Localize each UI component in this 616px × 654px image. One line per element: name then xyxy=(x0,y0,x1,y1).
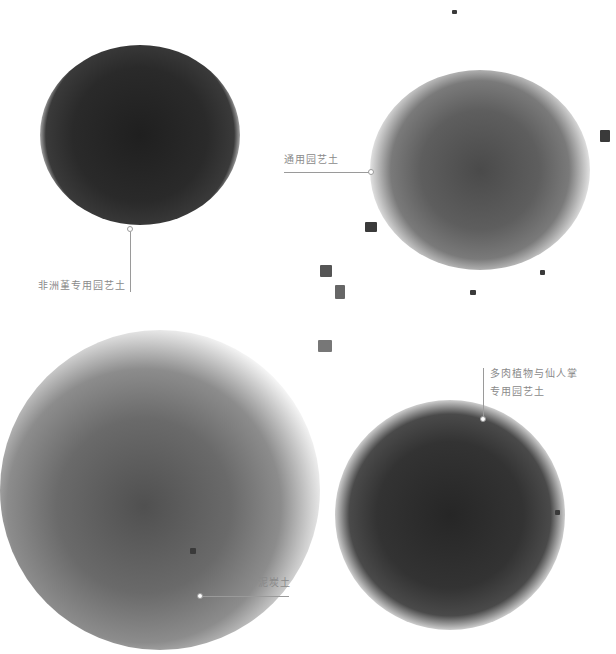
african-violet-soil-pile xyxy=(40,45,240,225)
leader-line-peat xyxy=(203,596,289,597)
general-soil-pile xyxy=(370,70,590,270)
label-succulent-soil-line2: 专用园艺土 xyxy=(490,384,545,400)
soil-speck xyxy=(365,222,377,232)
label-succulent-soil-line1: 多肉植物与仙人掌 xyxy=(490,366,578,382)
soil-speck xyxy=(470,290,476,295)
label-african-violet-soil: 非洲堇专用园艺土 xyxy=(38,278,126,294)
soil-speck xyxy=(318,340,332,352)
succulent-soil-pile xyxy=(335,400,565,630)
leader-dot-succulent xyxy=(480,416,486,422)
soil-speck xyxy=(600,130,610,142)
leader-line-general xyxy=(284,172,370,173)
leader-line-succulent xyxy=(483,368,484,418)
soil-speck xyxy=(452,10,457,14)
soil-speck xyxy=(555,510,560,515)
leader-dot-general xyxy=(368,169,374,175)
soil-speck xyxy=(190,548,196,554)
peat-soil-pile xyxy=(0,330,320,650)
soil-speck xyxy=(320,265,332,277)
label-general-soil: 通用园艺土 xyxy=(284,152,339,168)
leader-line-african-violet xyxy=(130,232,131,292)
soil-speck xyxy=(335,285,345,299)
soil-speck xyxy=(540,270,545,275)
label-peat-soil: 泥炭土 xyxy=(258,575,291,591)
